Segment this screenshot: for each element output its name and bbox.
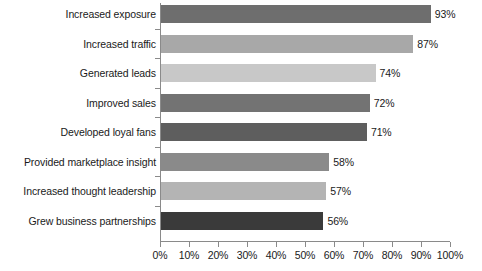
bar-value-label: 71% bbox=[371, 127, 392, 138]
x-axis-tick bbox=[363, 242, 364, 247]
x-axis-tick-label: 20% bbox=[208, 249, 229, 261]
category-label: Increased exposure bbox=[66, 9, 156, 20]
bar-value-label: 72% bbox=[374, 98, 395, 109]
bar-value-label: 74% bbox=[380, 68, 401, 79]
category-label: Increased thought leadership bbox=[23, 186, 156, 197]
bar bbox=[161, 212, 323, 230]
bar-value-label: 57% bbox=[330, 186, 351, 197]
category-label: Grew business partnerships bbox=[28, 216, 156, 227]
y-axis-tick bbox=[155, 88, 160, 89]
x-axis-tick bbox=[421, 242, 422, 247]
x-axis-tick-label: 0% bbox=[153, 249, 168, 261]
x-axis-tick bbox=[334, 242, 335, 247]
y-axis-tick bbox=[155, 176, 160, 177]
x-axis-tick-label: 70% bbox=[353, 249, 374, 261]
bar-value-label: 58% bbox=[333, 157, 354, 168]
x-axis-tick bbox=[218, 242, 219, 247]
y-axis-tick bbox=[155, 29, 160, 30]
category-label: Developed loyal fans bbox=[61, 127, 156, 138]
x-axis-tick bbox=[160, 242, 161, 247]
x-axis-tick-label: 60% bbox=[324, 249, 345, 261]
y-axis-tick bbox=[155, 206, 160, 207]
y-axis-tick bbox=[155, 58, 160, 59]
x-axis-tick-label: 100% bbox=[437, 249, 463, 261]
x-axis-tick-label: 90% bbox=[411, 249, 432, 261]
bar bbox=[161, 5, 431, 23]
bar-value-label: 93% bbox=[435, 9, 456, 20]
x-axis-tick bbox=[305, 242, 306, 247]
y-axis-tick bbox=[155, 117, 160, 118]
x-axis-tick-label: 40% bbox=[266, 249, 287, 261]
y-axis-tick bbox=[155, 147, 160, 148]
x-axis-tick bbox=[247, 242, 248, 247]
category-label: Generated leads bbox=[80, 68, 156, 79]
bar-chart: 0%10%20%30%40%50%60%70%80%90%100% Increa… bbox=[0, 0, 482, 271]
bar-value-label: 87% bbox=[417, 39, 438, 50]
x-axis-tick bbox=[189, 242, 190, 247]
x-axis-tick-label: 10% bbox=[179, 249, 200, 261]
x-axis-tick bbox=[450, 242, 451, 247]
plot-area: 0%10%20%30%40%50%60%70%80%90%100% Increa… bbox=[0, 0, 482, 271]
x-axis-tick-label: 30% bbox=[237, 249, 258, 261]
bar bbox=[161, 64, 376, 82]
bar bbox=[161, 94, 370, 112]
x-axis-tick-label: 50% bbox=[295, 249, 316, 261]
bar bbox=[161, 153, 329, 171]
x-axis-tick bbox=[276, 242, 277, 247]
bar bbox=[161, 35, 413, 53]
category-label: Improved sales bbox=[86, 98, 156, 109]
category-label: Increased traffic bbox=[83, 39, 156, 50]
category-label: Provided marketplace insight bbox=[24, 157, 156, 168]
bar bbox=[161, 123, 367, 141]
x-axis-tick-label: 80% bbox=[382, 249, 403, 261]
bar bbox=[161, 182, 326, 200]
x-axis-tick bbox=[392, 242, 393, 247]
bar-value-label: 56% bbox=[327, 216, 348, 227]
